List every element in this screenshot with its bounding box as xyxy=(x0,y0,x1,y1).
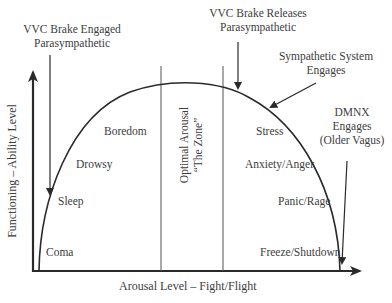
zone-line2: “The Zone” xyxy=(191,95,205,195)
state-boredom: Boredom xyxy=(104,124,147,138)
x-axis-label: Arousal Level – Fight/Flight xyxy=(119,279,257,293)
state-drowsy: Drowsy xyxy=(76,157,112,171)
vvc-releases-line1: VVC Brake Releases xyxy=(204,6,312,20)
dmnx-label: DMNX Engages (Older Vagus) xyxy=(312,105,392,147)
zone-line1: Optimal Arousal xyxy=(177,95,191,195)
state-panic-rage: Panic/Rage xyxy=(278,194,330,208)
vvc-engaged-label: VVC Brake Engaged Parasympathetic xyxy=(20,22,124,50)
vvc-releases-line2: Parasympathetic xyxy=(204,20,312,34)
state-freeze-shutdown: Freeze/Shutdown xyxy=(260,245,340,259)
sympathetic-line1: Sympathetic System xyxy=(274,49,378,63)
vvc-releases-label: VVC Brake Releases Parasympathetic xyxy=(204,6,312,34)
state-coma: Coma xyxy=(46,245,73,259)
sympathetic-label: Sympathetic System Engages xyxy=(274,49,378,77)
state-anxiety-anger: Anxiety/Anger xyxy=(245,157,314,171)
sympathetic-line2: Engages xyxy=(274,63,378,77)
optimal-zone-label: Optimal Arousal “The Zone” xyxy=(177,95,207,195)
vvc-engaged-line1: VVC Brake Engaged xyxy=(20,22,124,36)
y-axis-label: Functioning – Ability Level xyxy=(4,101,20,241)
sympathetic-arrow xyxy=(271,83,316,107)
state-stress: Stress xyxy=(256,124,283,138)
dmnx-arrow xyxy=(342,161,347,263)
dmnx-line3: (Older Vagus) xyxy=(312,133,392,147)
vvc-engaged-line2: Parasympathetic xyxy=(20,36,124,50)
state-sleep: Sleep xyxy=(58,194,84,208)
dmnx-line1: DMNX xyxy=(312,105,392,119)
dmnx-line2: Engages xyxy=(312,119,392,133)
